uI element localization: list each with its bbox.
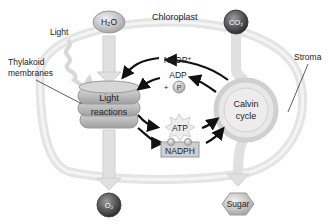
atp-label: ATP [172, 123, 188, 133]
chloroplast-diagram: Light reactions Calvin cycle NADP⁺ ADP +… [0, 0, 328, 224]
calvin-cycle [216, 80, 276, 140]
nadph-label: NADPH [165, 146, 195, 156]
light-reactions-label-1: Light [99, 93, 119, 103]
o2-label: O₂ [105, 201, 114, 210]
phosphate-label: P [177, 84, 182, 91]
plus-sign: + [164, 83, 169, 92]
o2-output-arrow [97, 130, 121, 190]
nadp-label: NADP⁺ [164, 55, 193, 65]
thylakoid-label-2: membranes [8, 68, 53, 78]
co2-input-arrow [236, 32, 246, 80]
h2o-label: H₂O [101, 17, 117, 27]
co2-label: CO₂ [229, 18, 243, 27]
light-reactions-label-2: reactions [91, 107, 128, 117]
calvin-label-2: cycle [236, 111, 257, 121]
light-label: Light [50, 27, 69, 37]
thylakoid-label-1: Thylakoid [8, 57, 45, 67]
chloroplast-title: Chloroplast [152, 12, 198, 22]
adp-label: ADP [169, 70, 187, 80]
calvin-label-1: Calvin [233, 99, 258, 109]
thylakoid-stack [78, 81, 140, 128]
light-squiggle-icon [66, 40, 94, 88]
sugar-label: Sugar [227, 199, 250, 209]
stroma-label: Stroma [294, 52, 322, 62]
h2o-input-arrow [97, 36, 121, 84]
